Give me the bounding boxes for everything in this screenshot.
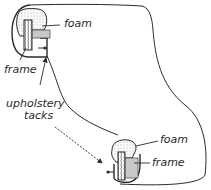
label-bottom-frame: frame <box>152 157 185 169</box>
leader-tacks-down <box>55 127 102 163</box>
bottom-assembly <box>106 140 140 183</box>
diagram-canvas: foam frame upholstery tacks foam frame <box>0 0 211 190</box>
leader-tacks-up <box>40 58 46 85</box>
bottom-gray-fill <box>124 158 138 178</box>
leader-bottom-foam <box>136 141 158 146</box>
bottom-frame-wood <box>118 152 125 180</box>
label-bottom-foam: foam <box>160 134 188 146</box>
top-frame-wood <box>24 20 32 50</box>
top-gray-fill <box>30 30 50 38</box>
label-top-frame: frame <box>4 64 37 76</box>
label-tacks-line2: tacks <box>24 110 53 122</box>
top-assembly <box>12 5 50 57</box>
label-top-foam: foam <box>64 18 92 30</box>
fabric-inner-curve <box>47 56 118 135</box>
leader-top-frame <box>20 48 26 60</box>
